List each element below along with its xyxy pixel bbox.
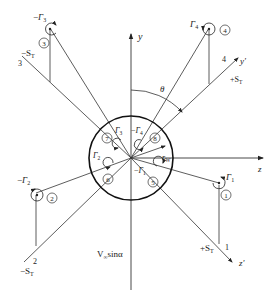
freestream-label: V∞sinα	[97, 249, 123, 260]
vortex-5: −Γ1 5	[134, 156, 163, 187]
theta-arc	[131, 90, 182, 112]
vortex-8: −Γ4 8	[131, 126, 160, 150]
svg-text:7: 7	[105, 135, 109, 143]
span-label-1: 1 +ST	[200, 243, 229, 254]
svg-text:4: 4	[222, 55, 226, 64]
svg-text:2: 2	[33, 257, 37, 266]
y-axis-label: y	[137, 31, 143, 42]
svg-text:Γ4: Γ4	[189, 19, 198, 30]
y-prime-axis-label: y'	[239, 56, 247, 66]
vortex-1: Γ1 1	[213, 172, 234, 200]
svg-text:8: 8	[153, 135, 157, 143]
svg-text:−Γ4: −Γ4	[131, 126, 143, 136]
z-axis-label: z	[257, 164, 262, 174]
svg-text:−Γ2: −Γ2	[17, 175, 30, 186]
svg-text:1: 1	[224, 192, 228, 200]
z-prime-axis	[131, 158, 232, 262]
svg-text:+ST: +ST	[230, 75, 243, 85]
vortex-3: −Γ3 3	[33, 12, 56, 48]
panel-line-2	[24, 158, 131, 262]
vortex-7: Γ3 7	[102, 126, 123, 148]
svg-text:3: 3	[18, 59, 22, 68]
svg-text:3: 3	[42, 40, 46, 48]
span-label-3: −ST 3	[18, 48, 35, 68]
svg-text:2: 2	[50, 195, 54, 203]
span-label-2: 2 −ST	[20, 257, 37, 277]
panel-line-3	[22, 56, 131, 158]
svg-text:1: 1	[225, 243, 229, 252]
svg-text:−ST: −ST	[20, 266, 34, 277]
svg-text:−Γ3: −Γ3	[33, 12, 46, 23]
svg-text:−Γ1: −Γ1	[134, 166, 146, 176]
theta-label: θ	[160, 84, 165, 94]
y-prime-axis	[131, 58, 238, 158]
svg-text:+ST: +ST	[200, 243, 214, 254]
svg-text:−ST: −ST	[21, 48, 35, 59]
svg-text:6: 6	[106, 176, 110, 184]
svg-text:Γ2: Γ2	[92, 151, 101, 161]
svg-text:4: 4	[223, 27, 227, 35]
wing-body-vortex-diagram: y z y' z' θ rW −Γ3 3 −ST 3 Γ4	[0, 0, 277, 298]
svg-text:Γ3: Γ3	[114, 126, 123, 136]
vortex-line-4	[131, 28, 209, 158]
svg-text:5: 5	[151, 179, 155, 187]
vortex-2: −Γ2 2	[17, 175, 57, 203]
z-prime-axis-label: z'	[238, 258, 246, 268]
vortex-line-2	[36, 158, 131, 193]
vortex-4: Γ4 4	[189, 19, 230, 35]
svg-text:Γ1: Γ1	[225, 172, 234, 183]
